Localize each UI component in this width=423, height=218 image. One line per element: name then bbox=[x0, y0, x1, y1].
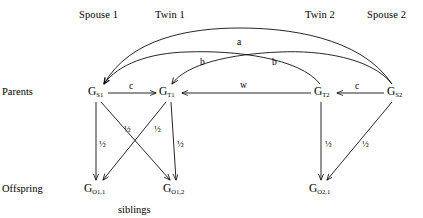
edge-label-b1: b bbox=[200, 58, 205, 68]
diagram-edges-layer bbox=[0, 0, 423, 218]
column-header-twin1: Twin 1 bbox=[155, 10, 185, 21]
node-go21: GO2,1 bbox=[309, 183, 330, 195]
column-header-spouse2: Spouse 2 bbox=[367, 10, 406, 21]
node-go12: GO1,2 bbox=[163, 183, 184, 195]
siblings-annotation: siblings bbox=[118, 205, 151, 216]
node-gt1-sub: T1 bbox=[167, 91, 174, 98]
edge-label-half-s1-o12: ½ bbox=[154, 125, 161, 134]
node-go12-sub: O1,2 bbox=[171, 188, 184, 195]
column-header-twin2: Twin 2 bbox=[305, 10, 335, 21]
edge-label-half-t2-o21: ½ bbox=[325, 140, 332, 149]
node-go11-sub: O1,1 bbox=[92, 188, 105, 195]
node-gt2-sub: T2 bbox=[322, 91, 329, 98]
node-gs2-sub: S2 bbox=[395, 91, 402, 98]
edge-h6 bbox=[327, 102, 392, 180]
edge-b1 bbox=[104, 52, 320, 84]
node-gs2: GS2 bbox=[387, 86, 402, 98]
row-label-parents: Parents bbox=[2, 87, 33, 98]
edge-label-half-s2-o21: ½ bbox=[362, 140, 369, 149]
edge-label-c2: c bbox=[355, 82, 359, 92]
node-gt2: GT2 bbox=[314, 86, 330, 98]
node-go11: GO1,1 bbox=[84, 183, 105, 195]
column-header-spouse1: Spouse 1 bbox=[79, 10, 118, 21]
edge-h3 bbox=[101, 102, 170, 180]
edge-label-half-t1-o12: ½ bbox=[177, 140, 184, 149]
node-go21-sub: O2,1 bbox=[317, 188, 330, 195]
path-diagram-figure: Spouse 1 Twin 1 Twin 2 Spouse 2 Parents … bbox=[0, 0, 423, 218]
edge-label-b2: b bbox=[272, 58, 277, 68]
edge-a bbox=[104, 28, 392, 84]
node-gs1-sub: S1 bbox=[96, 91, 103, 98]
edge-label-a: a bbox=[237, 38, 241, 48]
edge-label-c1: c bbox=[129, 82, 133, 92]
row-label-offspring: Offspring bbox=[2, 184, 43, 195]
edge-label-half-t1-o11: ½ bbox=[124, 125, 131, 134]
edge-h4 bbox=[171, 102, 176, 180]
edge-b2 bbox=[172, 52, 392, 84]
node-gs1: GS1 bbox=[88, 86, 103, 98]
edge-label-half-s1-o11: ½ bbox=[99, 140, 106, 149]
edge-label-w: w bbox=[240, 81, 247, 91]
node-gt1: GT1 bbox=[159, 86, 175, 98]
edge-h2 bbox=[103, 102, 166, 180]
